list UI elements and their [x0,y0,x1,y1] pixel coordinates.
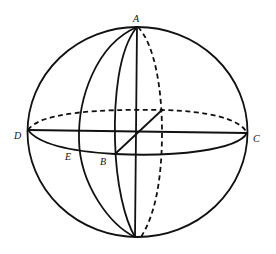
label-b: B [100,156,106,167]
label-c: C [253,133,260,144]
vertical-axis [135,27,137,237]
label-e: E [64,151,71,162]
sphere-figure: A D C E B [0,0,276,254]
label-d: D [13,130,22,141]
sphere-diagram: A D C E B [0,0,276,254]
label-a: A [132,13,140,24]
equator-back-dashed [28,110,247,133]
